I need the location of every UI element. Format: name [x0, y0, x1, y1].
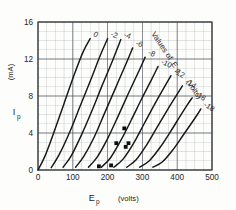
x-axis-symbol: E: [89, 193, 95, 203]
marked-point-3: [122, 126, 126, 130]
x-tick-500: 500: [205, 173, 219, 182]
y-tick-12: 12: [24, 55, 34, 64]
marked-point-0: [97, 164, 101, 168]
curve-label--8: -8: [147, 48, 157, 59]
curve-label--18: -18: [202, 100, 216, 113]
x-axis-symbol-subscript: p: [96, 198, 100, 206]
y-tick-8: 8: [28, 92, 33, 101]
y-axis-symbol-subscript: p: [17, 113, 21, 121]
marked-point-4: [124, 145, 128, 149]
curve-group: [38, 39, 201, 170]
y-tick-16: 16: [24, 18, 34, 27]
y-axis-title-group: I p (mA): [6, 63, 21, 121]
x-tick-200: 200: [101, 173, 115, 182]
marked-point-2: [114, 141, 118, 145]
x-tick-labels: 0100200300400500: [36, 173, 220, 182]
y-axis-symbol: I: [13, 107, 16, 117]
x-tick-400: 400: [170, 173, 184, 182]
x-tick-0: 0: [36, 173, 41, 182]
plate-characteristic-chart: 0-2-4-6-8-10-12-14-16-18 010020030040050…: [0, 0, 236, 210]
x-tick-100: 100: [66, 173, 80, 182]
x-tick-300: 300: [136, 173, 150, 182]
figure-container: 0-2-4-6-8-10-12-14-16-18 010020030040050…: [0, 0, 236, 210]
curve--10: [101, 66, 158, 167]
y-tick-0: 0: [28, 166, 33, 175]
y-tick-4: 4: [28, 129, 33, 138]
curve-label-0: 0: [92, 29, 100, 39]
marked-point-5: [127, 141, 131, 145]
curve--2: [51, 39, 107, 168]
marked-point-1: [109, 163, 113, 167]
curve-label--4: -4: [123, 30, 133, 41]
x-axis-title-group: E p (volts): [89, 193, 139, 206]
y-axis-unit: (mA): [6, 63, 15, 80]
annotation-values-of-eg: Values of E g (volts): [149, 30, 204, 101]
curve--6: [76, 48, 133, 167]
x-axis-unit: (volts): [118, 194, 139, 203]
curve--8: [88, 57, 145, 167]
y-tick-labels: 0481216: [24, 18, 34, 175]
curve-label--2: -2: [109, 29, 119, 40]
